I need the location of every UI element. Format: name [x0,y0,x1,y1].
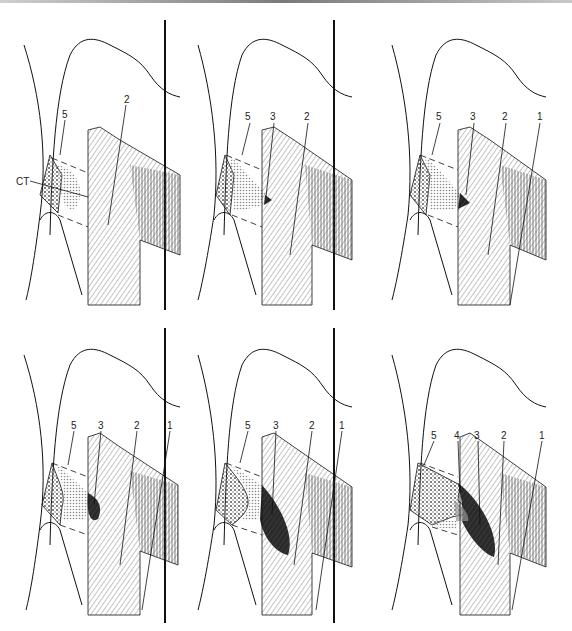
label-5: 5 [436,111,442,122]
label-ct: CT [16,176,29,187]
panel-a: 5 2 CT [0,15,190,315]
panel-e: 5 3 2 1 [170,325,360,625]
label-5: 5 [431,430,437,441]
top-edge-shadow [0,0,572,3]
label-2: 2 [501,430,507,441]
label-5: 5 [71,420,77,431]
panel-c: 5 3 2 1 [370,15,560,315]
label-2: 2 [304,111,310,122]
label-5: 5 [62,109,68,120]
label-1: 1 [539,430,545,441]
label-5: 5 [245,111,251,122]
label-1: 1 [537,111,543,122]
panel-d: 5 3 2 1 [0,325,190,625]
label-3: 3 [98,420,104,431]
label-2: 2 [502,111,508,122]
label-2: 2 [309,420,315,431]
panel-f: 5 4 3 2 1 [370,325,560,625]
left-contour [24,45,43,300]
panel-b: 5 3 2 [170,15,360,315]
label-3: 3 [474,430,480,441]
region-5 [58,165,80,209]
label-3: 3 [470,111,476,122]
dashed-line-lower [58,215,88,227]
label-2: 2 [124,94,130,105]
label-3: 3 [273,420,279,431]
leader-5 [60,120,65,155]
bone-crest [40,213,82,296]
label-1: 1 [339,420,345,431]
label-3: 3 [270,111,276,122]
label-2: 2 [134,420,140,431]
label-4: 4 [454,430,460,441]
label-5: 5 [245,420,251,431]
